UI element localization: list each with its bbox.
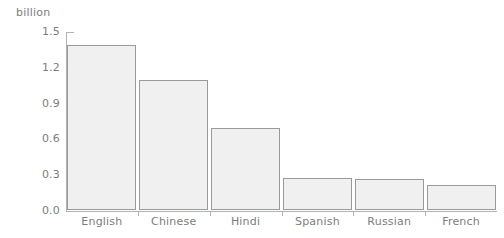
y-axis-tick-label: 1.5: [42, 25, 60, 38]
bar: [139, 80, 208, 210]
x-axis-category-label: Hindi: [210, 215, 282, 228]
x-axis-category-label: Russian: [353, 215, 425, 228]
bar: [67, 45, 136, 210]
y-axis-tick-labels: 0.00.30.60.91.21.5: [0, 32, 60, 212]
x-axis-category-label: Chinese: [138, 215, 210, 228]
y-axis-tick-label: 0.9: [42, 97, 60, 110]
bar: [211, 128, 280, 210]
y-axis-tick-label: 0.6: [42, 132, 60, 145]
y-axis-tick-label: 0.0: [42, 204, 60, 217]
x-axis-category-label: English: [66, 215, 138, 228]
plot-area: [66, 32, 497, 211]
y-axis-tick: [67, 32, 74, 33]
x-axis-category-labels: EnglishChineseHindiSpanishRussianFrench: [66, 215, 497, 235]
y-axis-tick: [67, 211, 74, 212]
bar: [427, 185, 496, 210]
y-axis-tick-label: 1.2: [42, 61, 60, 74]
x-axis-category-label: Spanish: [282, 215, 354, 228]
y-axis-unit-label: billion: [16, 6, 50, 19]
bar-chart: billion 0.00.30.60.91.21.5 EnglishChines…: [0, 0, 504, 238]
bar: [283, 178, 352, 210]
x-axis-category-label: French: [425, 215, 497, 228]
bar: [355, 179, 424, 210]
y-axis-tick-label: 0.3: [42, 168, 60, 181]
